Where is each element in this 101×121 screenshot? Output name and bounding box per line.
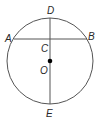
label-e: E — [46, 108, 53, 119]
label-c: C — [41, 43, 49, 54]
label-b: B — [88, 31, 95, 42]
label-a: A — [4, 33, 12, 44]
center-point-dot — [48, 59, 53, 64]
label-o: O — [40, 65, 48, 76]
circle-diagram: D A B C O E — [0, 0, 101, 121]
label-d: D — [47, 5, 54, 16]
